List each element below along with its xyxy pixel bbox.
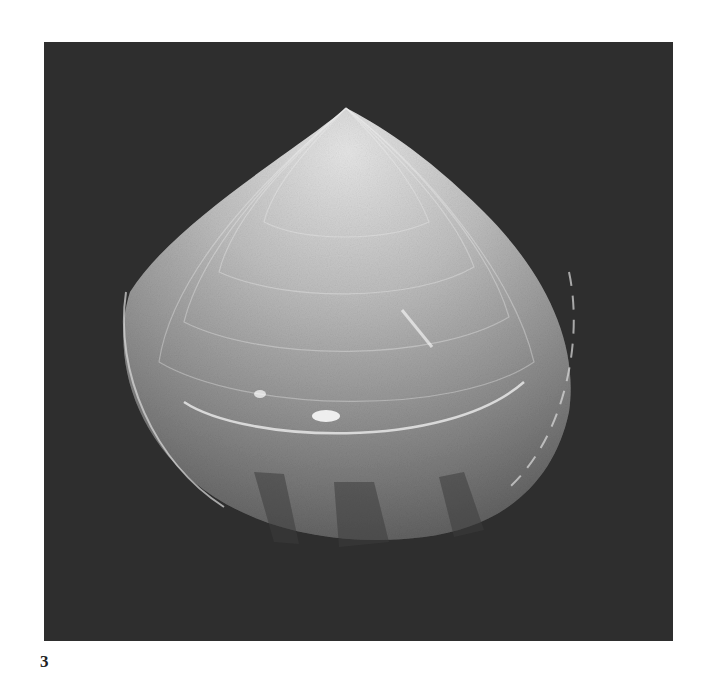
shell-body	[123, 108, 570, 540]
figure-label: 3	[40, 652, 49, 672]
shell-illustration	[44, 42, 673, 641]
shell-photograph	[44, 42, 673, 641]
